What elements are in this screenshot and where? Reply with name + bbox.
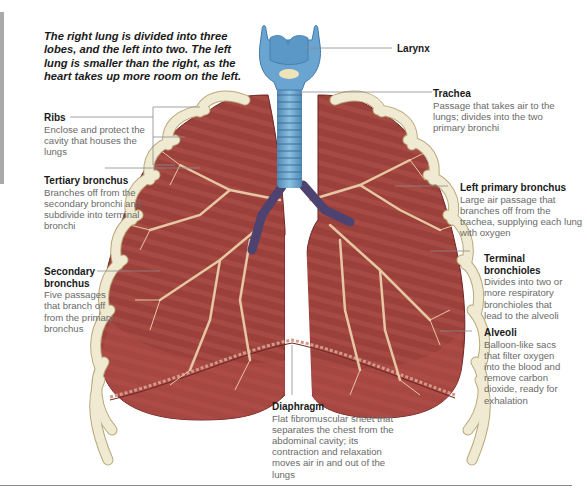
label-tertiary-bronchus: Tertiary bronchus Branches off from the … — [44, 175, 169, 231]
label-diaphragm-desc: Flat fibromuscular sheet that separates … — [272, 413, 402, 480]
label-diaphragm: Diaphragm Flat fibromuscular sheet that … — [272, 401, 402, 480]
label-trachea: Trachea Passage that takes air to the lu… — [433, 88, 563, 133]
larynx-shape — [259, 26, 320, 91]
label-terminal-bronchioles-desc: Divides into two or more respiratory bro… — [484, 276, 564, 321]
label-trachea-desc: Passage that takes air to the lungs; div… — [433, 100, 563, 134]
label-tertiary-bronchus-desc: Branches off from the secondary bronchi … — [44, 187, 169, 232]
label-diaphragm-title: Diaphragm — [272, 401, 402, 413]
label-secondary-bronchus: Secondary bronchus Five passages that br… — [44, 266, 119, 334]
label-trachea-title: Trachea — [433, 88, 563, 100]
label-ribs: Ribs Enclose and protect the cavity that… — [44, 112, 154, 157]
label-secondary-bronchus-desc: Five passages that branch off from the p… — [44, 289, 119, 334]
bottom-divider — [0, 485, 572, 486]
label-alveoli-title: Alveoli — [484, 327, 569, 339]
label-tertiary-bronchus-title: Tertiary bronchus — [44, 175, 169, 187]
label-larynx: Larynx — [397, 43, 430, 55]
trachea — [277, 88, 302, 188]
intro-note: The right lung is divided into three lob… — [44, 30, 244, 84]
label-alveoli-desc: Balloon-like sacs that filter oxygen int… — [484, 339, 569, 406]
label-terminal-bronchioles-title: Terminal bronchioles — [484, 253, 564, 276]
label-larynx-title: Larynx — [397, 43, 430, 55]
label-alveoli: Alveoli Balloon-like sacs that filter ox… — [484, 327, 569, 406]
label-left-primary-bronchus-title: Left primary bronchus — [460, 182, 585, 194]
label-left-primary-bronchus: Left primary bronchus Large air passage … — [460, 182, 585, 238]
label-secondary-bronchus-title: Secondary bronchus — [44, 266, 119, 289]
label-ribs-title: Ribs — [44, 112, 154, 124]
label-terminal-bronchioles: Terminal bronchioles Divides into two or… — [484, 253, 564, 321]
label-left-primary-bronchus-desc: Large air passage that branches off from… — [460, 194, 585, 239]
label-ribs-desc: Enclose and protect the cavity that hous… — [44, 124, 154, 158]
